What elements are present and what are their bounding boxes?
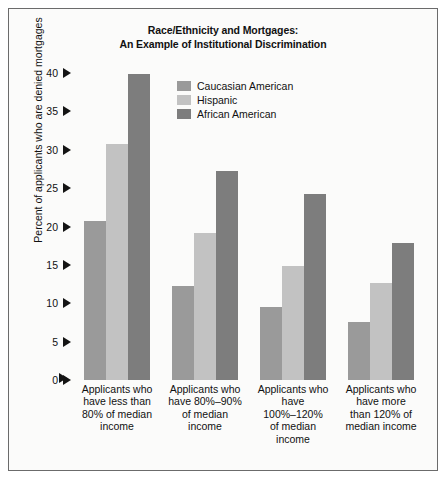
- y-axis-tick-arrow-icon: [63, 183, 71, 193]
- x-axis-label-line: of median: [250, 420, 336, 432]
- y-axis-tick: 20: [9, 220, 71, 234]
- y-axis-tick-arrow-icon: [63, 145, 71, 155]
- x-axis-label-line: have 80%–90%: [162, 395, 248, 407]
- bar: [194, 233, 216, 380]
- y-axis-tick-label: 5: [52, 336, 58, 348]
- chart-title-line-2: An Example of Institutional Discriminati…: [9, 37, 437, 51]
- bar: [172, 286, 194, 380]
- y-axis-tick-label: 35: [46, 105, 58, 117]
- bar: [106, 144, 128, 380]
- x-axis-label-line: income: [250, 433, 336, 445]
- bar: [348, 322, 370, 380]
- bar-group: [337, 73, 425, 380]
- legend-swatch: [177, 81, 191, 91]
- x-axis-label-line: have more: [338, 395, 424, 407]
- y-axis-tick: 5: [9, 335, 71, 349]
- y-axis-tick: 40: [9, 66, 71, 80]
- x-axis-label-line: income: [74, 420, 160, 432]
- legend-swatch: [177, 109, 191, 119]
- x-axis-label: Applicants whohave morethan 120% ofmedia…: [337, 383, 425, 445]
- y-axis-tick-label: 30: [46, 144, 58, 156]
- x-axis-label-line: 100%–120%: [250, 408, 336, 420]
- chart-figure: Race/Ethnicity and Mortgages: An Example…: [8, 8, 438, 471]
- x-axis-label-line: Applicants who: [162, 383, 248, 395]
- x-axis-label: Applicants whohave100%–120%of medianinco…: [249, 383, 337, 445]
- y-axis-tick-label: 0: [52, 374, 58, 386]
- y-axis-tick: 35: [9, 104, 71, 118]
- bar: [370, 283, 392, 380]
- y-axis-tick-arrow-icon: [63, 106, 71, 116]
- x-axis-label-line: Applicants who: [338, 383, 424, 395]
- y-axis-tick: 15: [9, 258, 71, 272]
- bar: [260, 307, 282, 380]
- x-axis-label-line: have: [250, 395, 336, 407]
- bar-group: [73, 73, 161, 380]
- x-axis-label-line: median income: [338, 420, 424, 432]
- x-axis-labels: Applicants whohave less than80% of media…: [73, 383, 425, 445]
- x-axis-label-line: Applicants who: [74, 383, 160, 395]
- chart-title-line-1: Race/Ethnicity and Mortgages:: [9, 23, 437, 37]
- y-axis-tick-label: 25: [46, 182, 58, 194]
- bar: [282, 266, 304, 380]
- x-axis-label-line: income: [162, 420, 248, 432]
- y-axis-tick-arrow-icon: [63, 68, 71, 78]
- x-axis-label-line: of median: [162, 408, 248, 420]
- x-axis-origin-arrow: [59, 373, 67, 383]
- chart-title: Race/Ethnicity and Mortgages: An Example…: [9, 23, 437, 51]
- bar: [392, 243, 414, 380]
- bar: [84, 221, 106, 380]
- x-axis-label: Applicants whohave less than80% of media…: [73, 383, 161, 445]
- bar: [128, 74, 150, 380]
- bar: [304, 194, 326, 381]
- y-axis-tick-label: 40: [46, 67, 58, 79]
- legend-item: Caucasian American: [177, 79, 347, 93]
- x-axis-label-line: 80% of median: [74, 408, 160, 420]
- y-axis-tick-arrow-icon: [63, 337, 71, 347]
- legend-label: Caucasian American: [197, 79, 293, 93]
- y-axis-tick: 30: [9, 143, 71, 157]
- legend-item: African American: [177, 107, 347, 121]
- legend-swatch: [177, 95, 191, 105]
- chart-legend: Caucasian AmericanHispanicAfrican Americ…: [177, 79, 347, 121]
- legend-label: Hispanic: [197, 93, 237, 107]
- bar: [216, 171, 238, 380]
- y-axis-tick: 25: [9, 181, 71, 195]
- y-axis-tick-label: 15: [46, 259, 58, 271]
- y-axis-tick-arrow-icon: [63, 222, 71, 232]
- y-axis-tick: 10: [9, 296, 71, 310]
- y-axis-tick-label: 10: [46, 297, 58, 309]
- legend-item: Hispanic: [177, 93, 347, 107]
- y-axis-tick-arrow-icon: [63, 298, 71, 308]
- y-axis-tick-label: 20: [46, 221, 58, 233]
- x-axis-label: Applicants whohave 80%–90%of medianincom…: [161, 383, 249, 445]
- x-axis-label-line: have less than: [74, 395, 160, 407]
- x-axis-label-line: than 120% of: [338, 408, 424, 420]
- x-axis-label-line: Applicants who: [250, 383, 336, 395]
- legend-label: African American: [197, 107, 276, 121]
- y-axis-tick-arrow-icon: [63, 260, 71, 270]
